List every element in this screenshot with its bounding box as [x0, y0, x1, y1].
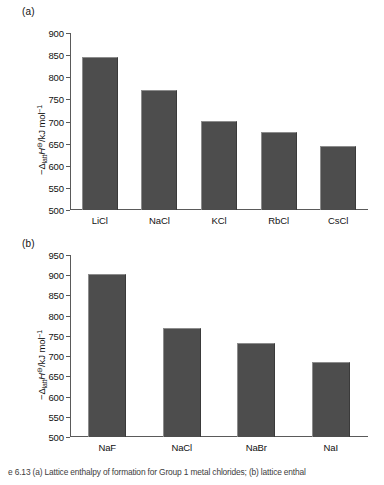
x-axis-category-label: RbCl [268, 215, 289, 226]
y-axis-tick-label: 850 [48, 290, 64, 301]
y-axis-tick-label: 750 [48, 94, 64, 105]
figure-lattice-enthalpy-bar-charts: (a) −ΔlattH⊖/kJ mol−1 500550600650700750… [0, 0, 384, 485]
x-axis-category-label: NaI [324, 442, 338, 453]
y-axis-title-standard-state-icon: ⊖ [36, 142, 43, 148]
y-axis-tick-label: 700 [48, 116, 64, 127]
panel-a-y-axis-title: −ΔlattH⊖/kJ mol−1 [36, 105, 48, 175]
x-axis-category-label: NaCl [149, 215, 170, 226]
panel-b-y-axis-title: −ΔlattH⊖/kJ mol−1 [36, 330, 48, 400]
y-axis-title-unit-exponent: −1 [36, 330, 43, 338]
y-axis-tick-label: 550 [48, 411, 64, 422]
y-axis-tick-label: 900 [48, 270, 64, 281]
x-axis-category-label: NaF [98, 442, 116, 453]
panel-a-label: (a) [22, 6, 35, 17]
y-axis-tick [66, 255, 70, 256]
y-axis-tick [66, 336, 70, 337]
panel-b: (b) 500550600650700750800850900950 NaFNa… [0, 232, 384, 460]
panel-b-label: (b) [22, 238, 35, 249]
y-axis-tick-label: 950 [48, 250, 64, 261]
y-axis-tick-label: 500 [48, 205, 64, 216]
bar-cscl [320, 146, 356, 210]
y-axis-tick-label: 650 [48, 371, 64, 382]
y-axis-title-symbol: H [36, 373, 47, 380]
y-axis-title-symbol: H [36, 148, 47, 155]
y-axis-tick-label: 550 [48, 182, 64, 193]
x-axis-category-label: NaCl [171, 442, 192, 453]
y-axis-tick [66, 33, 70, 34]
bar-nabr [237, 343, 275, 437]
y-axis-tick [66, 144, 70, 145]
bar-nai [312, 362, 350, 437]
y-axis-tick-label: 750 [48, 330, 64, 341]
y-axis-tick-label: 800 [48, 72, 64, 83]
x-axis-category-label: CsCl [328, 215, 348, 226]
y-axis-tick [66, 99, 70, 100]
y-axis-tick [66, 210, 70, 211]
y-axis-tick [66, 295, 70, 296]
x-axis-category-label: LiCl [92, 215, 108, 226]
y-axis-title-subscript: latt [41, 380, 48, 389]
y-axis-tick-label: 600 [48, 391, 64, 402]
y-axis-title-unit: /kJ mol [36, 113, 47, 142]
y-axis-tick [66, 122, 70, 123]
bar-licl [82, 57, 118, 210]
y-axis-tick-label: 700 [48, 351, 64, 362]
panel-a-plot-area: 500550600650700750800850900 LiClNaClKClR… [70, 33, 368, 210]
y-axis-tick [66, 316, 70, 317]
figure-caption-text: e 6.13 (a) Lattice enthalpy of formation… [8, 468, 306, 477]
y-axis-tick [66, 55, 70, 56]
y-axis-title-subscript: latt [41, 155, 48, 164]
y-axis-title-unit-exponent: −1 [36, 105, 43, 113]
bar-nacl [163, 328, 201, 437]
y-axis-tick-label: 800 [48, 310, 64, 321]
y-axis-tick [66, 356, 70, 357]
y-axis-tick [66, 417, 70, 418]
y-axis-tick-label: 900 [48, 28, 64, 39]
bar-kcl [201, 121, 237, 210]
y-axis-tick [66, 77, 70, 78]
y-axis-tick [66, 376, 70, 377]
y-axis-tick [66, 166, 70, 167]
y-axis-tick [66, 397, 70, 398]
y-axis-title-standard-state-icon: ⊖ [36, 367, 43, 373]
bar-naf [88, 274, 126, 437]
y-axis-title-prefix: −Δ [36, 163, 47, 175]
y-axis-title-unit: /kJ mol [36, 338, 47, 367]
x-axis-category-label: KCl [211, 215, 226, 226]
y-axis-tick-label: 600 [48, 160, 64, 171]
y-axis-title-prefix: −Δ [36, 388, 47, 400]
panel-b-y-axis-line [70, 255, 71, 437]
y-axis-tick-label: 650 [48, 138, 64, 149]
figure-caption: e 6.13 (a) Lattice enthalpy of formation… [0, 468, 384, 485]
y-axis-tick [66, 188, 70, 189]
y-axis-tick-label: 500 [48, 432, 64, 443]
y-axis-tick-label: 850 [48, 50, 64, 61]
panel-b-plot-area: 500550600650700750800850900950 NaFNaClNa… [70, 255, 368, 437]
x-axis-category-label: NaBr [246, 442, 267, 453]
bar-rbcl [261, 132, 297, 210]
bar-nacl [141, 90, 177, 210]
y-axis-tick [66, 275, 70, 276]
panel-a-y-axis-line [70, 33, 71, 210]
y-axis-tick [66, 437, 70, 438]
panel-a: (a) −ΔlattH⊖/kJ mol−1 500550600650700750… [0, 0, 384, 232]
